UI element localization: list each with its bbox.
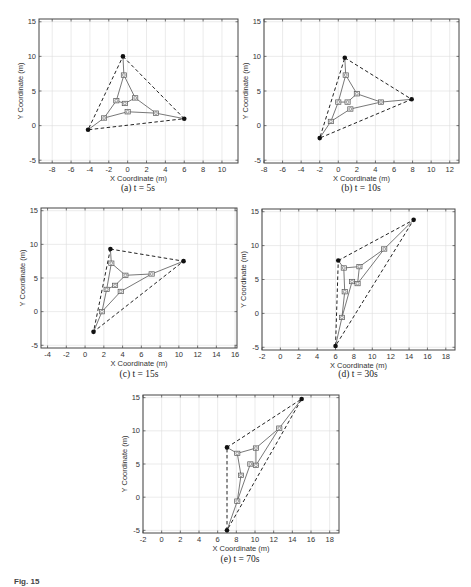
follower-robot-marker bbox=[341, 266, 346, 270]
x-tick-label: 6 bbox=[182, 165, 186, 174]
x-tick-label: -6 bbox=[279, 165, 286, 174]
x-tick-label: 10 bbox=[251, 535, 259, 544]
y-tick-label: 0 bbox=[136, 493, 140, 502]
x-tick-label: 6 bbox=[333, 352, 337, 361]
x-tick-label: 12 bbox=[386, 352, 394, 361]
x-tick-label: -4 bbox=[298, 165, 305, 174]
leader-robot-dot bbox=[342, 55, 347, 60]
x-tick-label: 2 bbox=[144, 165, 148, 174]
panel-caption: (a) t = 5s bbox=[121, 183, 155, 194]
follower-robot-marker bbox=[345, 100, 350, 104]
x-tick-label: 14 bbox=[212, 350, 220, 359]
y-tick-label: -5 bbox=[252, 343, 259, 352]
y-tick-label: 10 bbox=[253, 52, 261, 61]
follower-robot-marker bbox=[328, 119, 333, 123]
formation-edge bbox=[357, 94, 381, 102]
formation-edge bbox=[359, 249, 384, 267]
x-tick-label: 8 bbox=[410, 165, 414, 174]
follower-robot-marker bbox=[378, 100, 383, 104]
grid-lines bbox=[264, 19, 459, 163]
leader-robot-dot bbox=[409, 97, 414, 102]
x-tick-label: 10 bbox=[175, 350, 183, 359]
leader-robot-dot bbox=[86, 127, 91, 132]
y-axis-label: Y Coordinate (m) bbox=[120, 435, 129, 492]
follower-robot-marker bbox=[342, 290, 347, 294]
y-tick-label: 10 bbox=[30, 240, 38, 249]
formation-boundary-dashed bbox=[227, 399, 302, 530]
y-tick-label: -5 bbox=[31, 341, 38, 350]
follower-robot-marker bbox=[336, 100, 341, 104]
x-tick-label: 2 bbox=[102, 350, 106, 359]
x-tick-label: 4 bbox=[121, 350, 125, 359]
leader-robot-dot bbox=[317, 136, 322, 141]
follower-robot-marker bbox=[277, 426, 282, 430]
leader-robot-dot bbox=[225, 445, 230, 450]
x-tick-label: 0 bbox=[83, 350, 87, 359]
x-tick-label: 14 bbox=[288, 535, 296, 544]
follower-robot-marker bbox=[349, 279, 354, 283]
x-tick-label: 6 bbox=[392, 165, 396, 174]
y-axis-label: Y Coordinate (m) bbox=[239, 251, 248, 308]
y-axis-label: Y Coordinate (m) bbox=[18, 249, 27, 306]
formation-edge bbox=[331, 102, 338, 121]
y-tick-label: 5 bbox=[257, 87, 261, 96]
x-tick-label: 0 bbox=[160, 535, 164, 544]
x-tick-label: 0 bbox=[278, 352, 282, 361]
formation-edge bbox=[123, 56, 124, 75]
x-tick-label: 18 bbox=[442, 352, 450, 361]
leader-robot-dot bbox=[333, 344, 338, 349]
x-tick-label: 14 bbox=[405, 352, 413, 361]
formation-edge bbox=[107, 263, 112, 289]
formation-edge bbox=[135, 98, 156, 113]
leader-robot-dot bbox=[181, 259, 186, 264]
leader-robot-dot bbox=[182, 116, 187, 121]
y-tick-label: 5 bbox=[255, 275, 259, 284]
follower-robot-marker bbox=[357, 264, 362, 268]
follower-robot-marker bbox=[348, 107, 353, 111]
x-tick-label: 8 bbox=[352, 352, 356, 361]
formation-edge bbox=[345, 58, 346, 75]
follower-robot-marker bbox=[253, 446, 258, 450]
figure-caption: Fig. 15 bbox=[14, 577, 40, 586]
formation-edge bbox=[237, 453, 241, 475]
leader-robot-dot bbox=[299, 397, 304, 402]
x-axis-label: X Coordinate (m) bbox=[110, 359, 168, 368]
follower-robot-marker bbox=[238, 473, 243, 477]
x-tick-label: 2 bbox=[355, 165, 359, 174]
leader-robot-dot bbox=[225, 528, 230, 533]
follower-robot-marker bbox=[99, 309, 104, 313]
follower-robot-marker bbox=[123, 273, 128, 277]
x-tick-label: 6 bbox=[216, 535, 220, 544]
x-tick-label: -2 bbox=[140, 535, 147, 544]
follower-robot-marker bbox=[149, 272, 154, 276]
x-tick-label: 0 bbox=[336, 165, 340, 174]
panel-e: -2024681012141618-5051015X Coordinate (m… bbox=[120, 393, 339, 565]
x-tick-label: 16 bbox=[231, 350, 239, 359]
y-tick-label: -5 bbox=[254, 156, 261, 165]
x-tick-label: -2 bbox=[259, 352, 266, 361]
y-tick-label: 15 bbox=[28, 17, 36, 26]
x-tick-label: -6 bbox=[68, 165, 75, 174]
formation-edge bbox=[344, 268, 345, 292]
x-axis-label: X Coordinate (m) bbox=[333, 174, 391, 183]
follower-robot-marker bbox=[248, 462, 253, 466]
x-tick-label: 8 bbox=[234, 535, 238, 544]
follower-robot-marker bbox=[101, 116, 106, 120]
y-tick-label: 10 bbox=[251, 241, 259, 250]
x-tick-label: -8 bbox=[49, 165, 56, 174]
formation-edge bbox=[102, 289, 107, 311]
x-tick-label: 4 bbox=[197, 535, 201, 544]
x-tick-label: 4 bbox=[373, 165, 377, 174]
leader-robot-dot bbox=[336, 258, 341, 263]
x-tick-label: 10 bbox=[218, 165, 226, 174]
y-tick-label: 15 bbox=[253, 17, 261, 26]
panel-b: -8-6-4-2024681012-5051015X Coordinate (m… bbox=[241, 17, 459, 194]
y-tick-label: -5 bbox=[29, 156, 36, 165]
panel-caption: (d) t = 30s bbox=[338, 369, 378, 380]
leader-robot-dot bbox=[91, 330, 96, 335]
x-tick-label: 2 bbox=[297, 352, 301, 361]
y-tick-label: -5 bbox=[133, 526, 140, 535]
grid-lines bbox=[143, 395, 339, 533]
x-tick-label: -4 bbox=[87, 165, 94, 174]
y-tick-label: 10 bbox=[28, 52, 36, 61]
